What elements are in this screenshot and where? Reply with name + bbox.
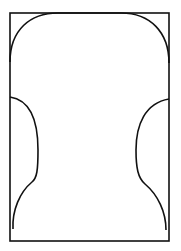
diagram-canvas [0,0,181,251]
right-lower-curve [136,99,169,230]
frame-rectangle [10,13,169,241]
outline-drawing [0,0,181,251]
upper-arch-curve [10,13,169,63]
left-lower-curve [10,97,38,229]
